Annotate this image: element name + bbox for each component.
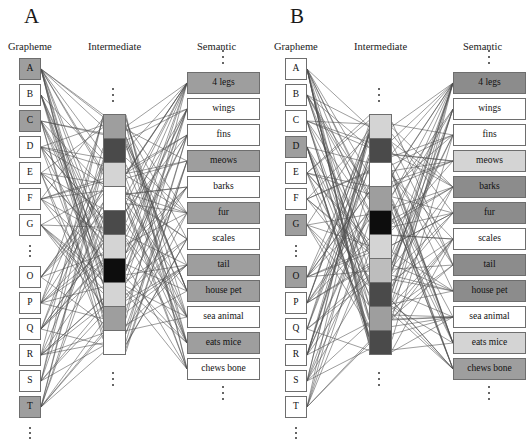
- semantic-unit: wings: [187, 98, 260, 120]
- intermediate-unit: [103, 258, 126, 283]
- panel-b-semantic-column: 4 legswingsfinsmeowsbarksfurscalestailho…: [453, 72, 526, 384]
- intermediate-unit: [369, 282, 392, 307]
- grapheme-unit: D: [285, 136, 307, 158]
- semantic-unit-label: tail: [217, 260, 229, 270]
- intermediate-unit: [369, 186, 392, 211]
- grapheme-ellipsis: [285, 422, 307, 443]
- grapheme-unit-label: S: [27, 376, 32, 386]
- grapheme-unit: G: [19, 214, 41, 236]
- grapheme-unit: A: [285, 58, 307, 80]
- panel-b-header-semantic: Semantic: [463, 41, 502, 52]
- semantic-unit-label: wings: [212, 104, 235, 114]
- panel-b-semantic-bottom-ellipsis: [488, 386, 490, 400]
- grapheme-unit: Q: [19, 318, 41, 340]
- grapheme-unit-label: F: [293, 194, 298, 204]
- semantic-unit-label: sea animal: [469, 312, 509, 322]
- semantic-unit-label: barks: [479, 182, 500, 192]
- intermediate-unit: [369, 306, 392, 331]
- intermediate-unit: [103, 138, 126, 163]
- semantic-unit: fur: [187, 202, 260, 224]
- grapheme-unit: A: [19, 58, 41, 80]
- grapheme-unit-label: Q: [27, 324, 34, 334]
- grapheme-unit: R: [285, 344, 307, 366]
- semantic-unit-label: fins: [482, 130, 496, 140]
- panel-a-header-semantic: Semantic: [197, 41, 236, 52]
- semantic-unit: tail: [187, 254, 260, 276]
- semantic-unit-label: 4 legs: [478, 78, 500, 88]
- semantic-unit: meows: [453, 150, 526, 172]
- semantic-unit: meows: [187, 150, 260, 172]
- semantic-unit: eats mice: [187, 332, 260, 354]
- intermediate-unit: [103, 306, 126, 331]
- panel-b-header-grapheme: Grapheme: [274, 41, 318, 52]
- panel-b-grapheme-column: ABCDEFGOPQRST: [285, 58, 307, 443]
- intermediate-unit: [369, 138, 392, 163]
- semantic-unit-label: fur: [484, 208, 495, 218]
- panel-a-letter: A: [24, 6, 39, 27]
- intermediate-unit: [103, 162, 126, 187]
- semantic-unit: scales: [187, 228, 260, 250]
- grapheme-unit-label: A: [27, 64, 34, 74]
- intermediate-unit: [103, 186, 126, 211]
- grapheme-unit: E: [19, 162, 41, 184]
- grapheme-unit-label: R: [293, 350, 299, 360]
- grapheme-unit: Q: [285, 318, 307, 340]
- grapheme-unit: O: [19, 266, 41, 288]
- grapheme-ellipsis: [19, 240, 41, 262]
- grapheme-unit-label: G: [27, 220, 34, 230]
- semantic-unit-label: house pet: [471, 286, 507, 296]
- grapheme-unit: R: [19, 344, 41, 366]
- panel-b-intermediate-bottom-ellipsis: [378, 372, 380, 386]
- grapheme-unit-label: C: [27, 116, 33, 126]
- semantic-unit: fins: [453, 124, 526, 146]
- grapheme-unit-label: E: [293, 168, 299, 178]
- semantic-unit-label: fur: [218, 208, 229, 218]
- semantic-unit-label: house pet: [205, 286, 241, 296]
- grapheme-unit: C: [19, 110, 41, 132]
- grapheme-unit-label: C: [293, 116, 299, 126]
- semantic-unit-label: sea animal: [203, 312, 243, 322]
- grapheme-unit: F: [285, 188, 307, 210]
- grapheme-unit-label: R: [27, 350, 33, 360]
- semantic-unit: chews bone: [187, 358, 260, 380]
- semantic-unit: 4 legs: [187, 72, 260, 94]
- intermediate-unit: [369, 330, 392, 355]
- semantic-unit-label: wings: [478, 104, 501, 114]
- semantic-unit: fins: [187, 124, 260, 146]
- intermediate-unit: [103, 114, 126, 139]
- grapheme-unit: S: [285, 370, 307, 392]
- semantic-unit: eats mice: [453, 332, 526, 354]
- grapheme-unit: P: [19, 292, 41, 314]
- semantic-unit-label: scales: [212, 234, 235, 244]
- semantic-unit: house pet: [453, 280, 526, 302]
- grapheme-unit-label: T: [27, 402, 33, 412]
- semantic-unit-label: eats mice: [472, 338, 508, 348]
- intermediate-unit: [369, 210, 392, 235]
- panel-a-intermediate-column: [103, 114, 126, 354]
- grapheme-unit: C: [285, 110, 307, 132]
- panel-b: B Grapheme Intermediate Semantic ABCDEFG…: [266, 0, 532, 429]
- panel-a-intermediate-top-ellipsis: [112, 88, 114, 102]
- grapheme-unit: G: [285, 214, 307, 236]
- grapheme-unit-label: G: [293, 220, 300, 230]
- intermediate-unit: [369, 114, 392, 139]
- intermediate-unit: [103, 282, 126, 307]
- semantic-unit-label: meows: [476, 156, 503, 166]
- panel-a-header-intermediate: Intermediate: [88, 41, 141, 52]
- intermediate-unit: [103, 210, 126, 235]
- intermediate-unit: [103, 330, 126, 355]
- semantic-unit: tail: [453, 254, 526, 276]
- semantic-unit: sea animal: [187, 306, 260, 328]
- semantic-unit: scales: [453, 228, 526, 250]
- semantic-unit: house pet: [187, 280, 260, 302]
- semantic-unit-label: eats mice: [206, 338, 242, 348]
- semantic-unit-label: 4 legs: [212, 78, 234, 88]
- semantic-unit-label: scales: [478, 234, 501, 244]
- semantic-unit-label: chews bone: [467, 364, 512, 374]
- grapheme-unit-label: P: [293, 298, 298, 308]
- panel-b-letter: B: [290, 6, 304, 27]
- grapheme-unit-label: A: [293, 64, 300, 74]
- grapheme-unit-label: T: [293, 402, 299, 412]
- grapheme-unit-label: O: [293, 272, 300, 282]
- grapheme-unit-label: E: [27, 168, 33, 178]
